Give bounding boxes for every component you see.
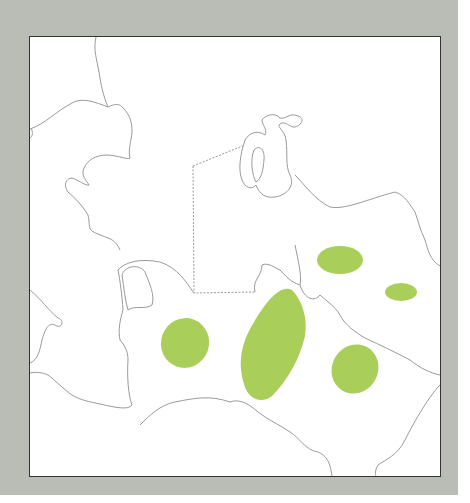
border-line: [295, 175, 440, 266]
dashed-border: [193, 145, 255, 293]
coastline: [30, 270, 132, 408]
lake-outline: [122, 267, 153, 310]
coastline: [30, 290, 62, 363]
lake-outline: [240, 115, 302, 198]
central-region: [241, 289, 306, 400]
border-line: [95, 37, 108, 107]
west-region: [154, 311, 216, 374]
border-line: [140, 398, 332, 476]
map-canvas: [0, 0, 470, 503]
southeast-region: [323, 336, 388, 402]
country-borders: [30, 37, 440, 476]
coastline: [30, 128, 32, 138]
lake-island: [252, 148, 264, 182]
east-small-region: [385, 283, 417, 301]
coastline: [30, 100, 132, 250]
north-region: [317, 246, 363, 274]
border-line: [118, 260, 194, 293]
border-line: [375, 385, 440, 476]
border-line: [295, 245, 301, 285]
